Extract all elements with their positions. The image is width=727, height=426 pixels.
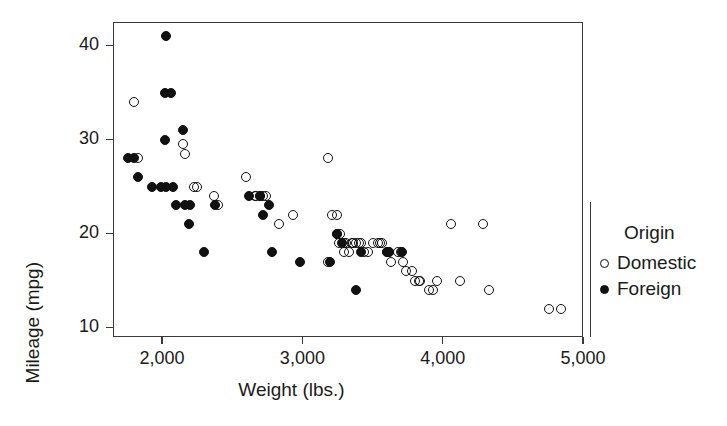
y-tick-label: 30: [57, 128, 99, 149]
data-point-domestic: [274, 219, 284, 229]
data-point-domestic: [484, 285, 494, 295]
legend-entry-domestic[interactable]: Domestic: [600, 252, 696, 274]
legend-label: Domestic: [617, 252, 696, 274]
data-point-foreign: [267, 247, 277, 257]
data-point-domestic: [428, 285, 438, 295]
data-point-foreign: [295, 257, 305, 267]
legend-divider: [590, 202, 591, 337]
data-point-foreign: [166, 88, 176, 98]
data-point-domestic: [323, 153, 333, 163]
data-point-foreign: [168, 182, 178, 192]
legend-label: Foreign: [617, 278, 681, 300]
data-point-domestic: [386, 257, 396, 267]
y-axis-title: Mileage (mpg): [22, 262, 44, 383]
legend-title: Origin: [624, 222, 675, 244]
y-tick-mark: [106, 233, 113, 234]
data-point-domestic: [556, 304, 566, 314]
plot-area: [113, 22, 583, 337]
scatter-plot-figure: Mileage (mpg) Weight (lbs.) 10203040 2,0…: [0, 0, 727, 426]
open-circle-icon: [600, 259, 609, 268]
data-point-foreign: [337, 238, 347, 248]
x-tick-label: 5,000: [560, 348, 605, 369]
x-tick-mark: [161, 337, 162, 344]
data-point-foreign: [351, 285, 361, 295]
x-tick-mark: [442, 337, 443, 344]
data-point-foreign: [258, 210, 268, 220]
y-tick-mark: [106, 45, 113, 46]
data-point-foreign: [244, 191, 254, 201]
x-tick-label: 4,000: [420, 348, 465, 369]
x-tick-mark: [302, 337, 303, 344]
x-tick-label: 2,000: [140, 348, 185, 369]
data-point-domestic: [192, 182, 202, 192]
y-tick-label: 10: [57, 316, 99, 337]
x-axis-title: Weight (lbs.): [0, 379, 583, 401]
data-point-domestic: [415, 276, 425, 286]
data-point-foreign: [160, 135, 170, 145]
data-point-domestic: [455, 276, 465, 286]
data-point-domestic: [407, 266, 417, 276]
x-tick-label: 3,000: [280, 348, 325, 369]
data-point-domestic: [180, 149, 190, 159]
data-point-domestic: [129, 97, 139, 107]
data-point-domestic: [288, 210, 298, 220]
y-tick-mark: [106, 139, 113, 140]
data-point-domestic: [432, 276, 442, 286]
y-tick-label: 20: [57, 222, 99, 243]
y-tick-mark: [106, 327, 113, 328]
y-tick-label: 40: [57, 34, 99, 55]
data-point-foreign: [184, 219, 194, 229]
legend-entry-foreign[interactable]: Foreign: [600, 278, 681, 300]
x-tick-mark: [582, 337, 583, 344]
filled-circle-icon: [600, 285, 609, 294]
